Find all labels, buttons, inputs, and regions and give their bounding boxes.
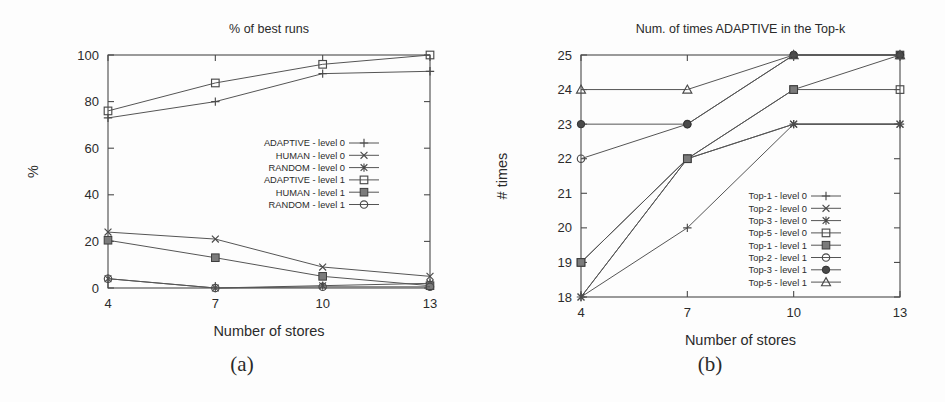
x-tick-label: 10: [315, 296, 329, 311]
data-point-filled-circle: [577, 120, 584, 127]
data-series: [578, 120, 904, 301]
chart-legend: ADAPTIVE - level 0HUMAN - level 0RANDOM …: [264, 138, 379, 210]
chart-title: % of best runs: [229, 22, 309, 36]
legend-entry-label: Top-2 - level 1: [749, 253, 807, 263]
legend-entry-label: HUMAN - level 0: [276, 151, 345, 161]
y-tick-label: 40: [85, 187, 99, 202]
y-tick-label: 20: [558, 220, 572, 235]
legend-marker-filled-square: [822, 241, 830, 249]
legend-entry-label: Top-5 - level 1: [749, 278, 807, 288]
y-tick-label: 100: [77, 48, 99, 63]
legend-entry-label: ADAPTIVE - level 0: [264, 138, 345, 148]
data-point-plus: [318, 69, 326, 77]
y-tick-label: 25: [558, 48, 572, 63]
legend-entry-label: ADAPTIVE - level 1: [264, 175, 345, 185]
data-point-plus: [211, 97, 219, 105]
data-series: [577, 51, 905, 94]
y-tick-label: 0: [92, 281, 99, 296]
x-axis-label: Number of stores: [213, 323, 324, 339]
data-series: [105, 229, 434, 280]
series-line: [108, 232, 430, 276]
y-axis-label: # times: [494, 153, 510, 200]
chart-title: Num. of times ADAPTIVE in the Top-k: [636, 22, 846, 36]
data-point-filled-square: [319, 273, 327, 281]
series-line: [581, 124, 900, 297]
chart-svg-a: % of best runs020406080100471013Number o…: [0, 0, 472, 350]
legend-entry-label: Top-1 - level 1: [749, 241, 807, 251]
legend-entry-label: Top-3 - level 1: [749, 265, 807, 275]
y-axis-label: %: [25, 165, 41, 178]
data-series: [577, 51, 903, 162]
data-series: [105, 274, 434, 292]
series-line: [108, 71, 430, 118]
y-tick-label: 24: [558, 82, 572, 97]
legend-marker-plus: [822, 192, 830, 200]
series-line: [108, 55, 430, 111]
data-point-filled-circle: [684, 120, 691, 127]
legend-entry-label: Top-3 - level 0: [749, 216, 807, 226]
chart-panel-b: Num. of times ADAPTIVE in the Top-k18192…: [473, 0, 945, 402]
y-tick-label: 19: [558, 255, 572, 270]
data-series: [577, 51, 904, 266]
x-tick-label: 13: [423, 296, 437, 311]
data-point-filled-square: [104, 236, 112, 244]
y-tick-label: 18: [558, 290, 572, 305]
data-series: [104, 236, 434, 289]
x-tick-label: 13: [893, 305, 907, 320]
chart-legend: Top-1 - level 0Top-2 - level 0Top-3 - le…: [749, 191, 841, 287]
data-series: [104, 51, 434, 115]
data-point-filled-square: [790, 86, 798, 94]
x-tick-label: 4: [104, 296, 111, 311]
legend-entry-label: RANDOM - level 0: [269, 163, 345, 173]
chart-panel-a: % of best runs020406080100471013Number o…: [0, 0, 472, 402]
legend-entry-label: Top-2 - level 0: [749, 204, 807, 214]
series-line: [581, 124, 900, 297]
x-tick-label: 10: [786, 305, 800, 320]
series-line: [581, 124, 900, 297]
y-tick-label: 22: [558, 151, 572, 166]
legend-marker-plus: [360, 139, 368, 147]
y-tick-label: 21: [558, 186, 572, 201]
legend-marker-filled-square: [360, 188, 368, 196]
figure-container: % of best runs020406080100471013Number o…: [0, 0, 945, 402]
chart-svg-b: Num. of times ADAPTIVE in the Top-k18192…: [473, 0, 945, 350]
legend-entry-label: RANDOM - level 1: [269, 200, 345, 210]
x-tick-label: 4: [577, 305, 584, 320]
data-point-plus: [426, 67, 434, 75]
subfigure-caption-a: (a): [182, 352, 302, 377]
y-tick-label: 80: [85, 94, 99, 109]
data-series: [577, 120, 904, 301]
y-tick-label: 23: [558, 117, 572, 132]
data-point-filled-square: [577, 259, 585, 267]
x-tick-label: 7: [212, 296, 219, 311]
legend-marker-filled-circle: [822, 266, 829, 273]
legend-entry-label: HUMAN - level 1: [276, 188, 345, 198]
series-line: [581, 55, 900, 90]
y-tick-label: 20: [85, 234, 99, 249]
subfigure-caption-b: (b): [650, 352, 770, 377]
legend-entry-label: Top-1 - level 0: [749, 191, 807, 201]
data-point-filled-square: [684, 155, 692, 163]
x-tick-label: 7: [684, 305, 691, 320]
y-tick-label: 60: [85, 141, 99, 156]
legend-entry-label: Top-5 - level 0: [749, 228, 807, 238]
series-line: [581, 55, 900, 262]
x-axis-label: Number of stores: [685, 332, 796, 348]
data-point-filled-square: [212, 254, 220, 262]
data-series: [104, 275, 433, 292]
data-series: [578, 121, 904, 301]
data-series: [104, 67, 434, 122]
series-line: [108, 240, 430, 285]
